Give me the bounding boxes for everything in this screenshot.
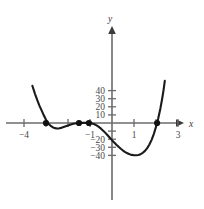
y-axis-label: y (107, 14, 113, 24)
x-tick-label: 1 (132, 130, 137, 140)
y-tick-label: 10 (96, 110, 106, 120)
y-axis-arrow-icon (108, 26, 116, 34)
y-tick-label: −40 (90, 151, 105, 161)
chart-canvas: −4−113 40302010−20−30−40 x y (0, 0, 204, 209)
y-axis (108, 26, 116, 200)
x-tick-label: 3 (176, 130, 181, 140)
root-point-marker (86, 120, 92, 126)
x-axis-label: x (188, 119, 194, 129)
x-axis-arrow-icon (176, 119, 184, 127)
root-point-marker (76, 120, 82, 126)
root-point-marker (154, 120, 160, 126)
root-point-marker (43, 120, 49, 126)
x-tick-label: −4 (19, 130, 29, 140)
chart-figure: −4−113 40302010−20−30−40 x y (0, 0, 204, 209)
